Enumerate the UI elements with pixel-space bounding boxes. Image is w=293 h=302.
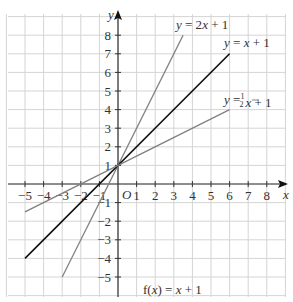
series-lines (25, 35, 230, 277)
x-tick-label: 2 (152, 188, 159, 203)
y-tick-label: 5 (105, 84, 112, 99)
annotation-y-2x-plus-1: y = 2x + 1 (174, 17, 228, 32)
annotation-f-x-plus-1: f(x) = x + 1 (143, 282, 202, 297)
x-tick-label: 6 (226, 188, 233, 203)
y-axis-label: y (106, 7, 114, 22)
annotation-y-x-plus-1: y = x + 1 (222, 35, 270, 50)
y-tick-label: 8 (105, 28, 112, 43)
x-axis-label: x (282, 187, 289, 202)
y-tick-label: 4 (105, 102, 112, 117)
y-tick-label: −3 (97, 232, 111, 247)
x-tick-label: 8 (264, 188, 271, 203)
x-tick-label: 1 (133, 188, 140, 203)
origin-label: O (122, 187, 132, 202)
y-tick-label: 2 (105, 139, 112, 154)
y-tick-label: 6 (105, 65, 112, 80)
x-tick-label: 4 (189, 188, 196, 203)
x-tick-label: 3 (171, 188, 178, 203)
x-tick-label: 7 (245, 188, 252, 203)
y-tick-label: 7 (105, 46, 112, 61)
x-tick-label: −5 (18, 188, 32, 203)
annotations: y = 2x + 1y = x + 1y =12x + 1f(x) = x + … (143, 17, 272, 297)
grid (6, 14, 286, 297)
line-chart: −5−4−3−2−112345678−5−4−3−2−112345678Oxy … (0, 0, 293, 302)
axes (8, 10, 288, 297)
x-tick-label: 5 (208, 188, 215, 203)
x-tick-label: −2 (74, 188, 88, 203)
x-tick-label: −4 (37, 188, 51, 203)
y-tick-label: −5 (97, 270, 111, 285)
y-tick-label: −2 (97, 214, 111, 229)
series-line (25, 54, 230, 259)
y-tick-label: 3 (105, 121, 112, 136)
y-tick-label: −4 (97, 251, 111, 266)
